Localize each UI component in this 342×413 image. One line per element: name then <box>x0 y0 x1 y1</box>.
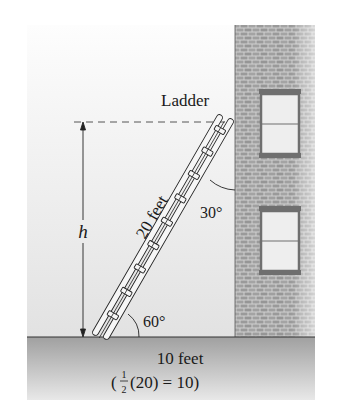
lower-window <box>259 206 301 275</box>
base-distance-label: 10 feet <box>157 349 204 368</box>
ground-angle-label: 60° <box>143 313 165 330</box>
height-label: h <box>78 221 88 242</box>
ladder-diagram: h 60° 30° Ladder 20 feet <box>0 0 342 413</box>
svg-text:(20) = 10): (20) = 10) <box>130 373 199 392</box>
fraction-numerator: 1 <box>122 369 127 380</box>
svg-text:(: ( <box>111 373 117 392</box>
fraction-denominator: 2 <box>122 384 127 395</box>
ladder-label: Ladder <box>161 91 209 110</box>
brick-wall <box>235 25 315 337</box>
upper-window <box>259 89 301 158</box>
wall-angle-label: 30° <box>200 204 222 221</box>
